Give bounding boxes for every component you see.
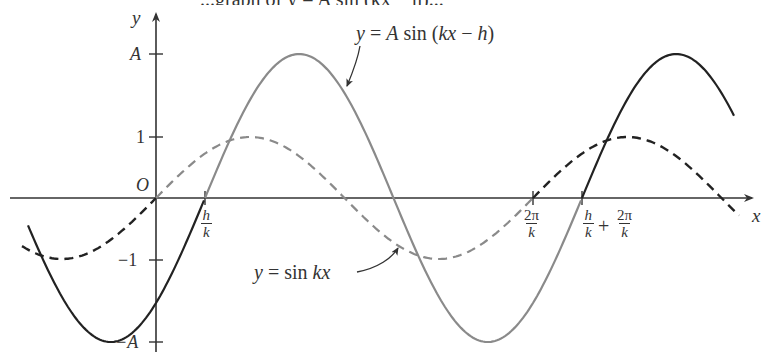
- y-tick-label-1: 1: [136, 128, 145, 146]
- x-axis-label: x: [752, 206, 760, 225]
- base-sine-curve-right: [533, 137, 739, 216]
- shifted-sine-label: y = A sin (kx − h): [356, 23, 494, 43]
- y-axis-label: y: [132, 8, 140, 27]
- fraction-numerator: 2π: [523, 208, 540, 223]
- label-part: y: [254, 261, 263, 283]
- label-part: kx: [313, 261, 331, 283]
- fraction-denominator: k: [619, 223, 630, 240]
- origin-label: O: [136, 176, 149, 194]
- y-tick-label-negA: −A: [115, 333, 138, 351]
- label-part: kx: [438, 22, 456, 44]
- label-part: sin (: [398, 22, 438, 44]
- fraction-denominator: k: [526, 223, 537, 240]
- x-tick-label-h-over-k-sum-part1: h k: [583, 208, 594, 240]
- caption-fragment: ...graph of y = A sin (kx − h)...: [0, 0, 773, 5]
- y-tick-label-A: A: [130, 45, 141, 63]
- label-part: = sin: [263, 261, 313, 283]
- x-tick-label-plus: +: [598, 216, 609, 236]
- shifted-sine-curve-left: [28, 200, 204, 342]
- caption-text: ...graph of y = A sin (kx − h)...: [200, 0, 444, 5]
- fraction-denominator: k: [201, 223, 212, 240]
- shifted-sine-leader-arrow: [347, 46, 360, 86]
- y-tick-label-neg1: −1: [118, 251, 137, 269]
- base-sine-leader-arrow: [357, 248, 398, 272]
- plot-canvas: [0, 0, 773, 360]
- label-part: A: [386, 22, 398, 44]
- x-tick-label-h-over-k: h k: [201, 208, 212, 240]
- label-part: h: [477, 22, 487, 44]
- x-tick-label-h-over-k-sum-part2: 2π k: [616, 208, 633, 240]
- label-part: =: [365, 22, 386, 44]
- shifted-sine-curve-right: [582, 54, 734, 198]
- label-part: y: [356, 22, 365, 44]
- fraction-numerator: 2π: [616, 208, 633, 223]
- label-part: −: [456, 22, 477, 44]
- fraction-numerator: h: [584, 208, 594, 223]
- label-part: ): [487, 22, 494, 44]
- fraction-numerator: h: [202, 208, 212, 223]
- sine-transformation-diagram: ...graph of y = A sin (kx − h)... y x O …: [0, 0, 773, 360]
- fraction-denominator: k: [583, 223, 594, 240]
- base-sine-label: y = sin kx: [254, 262, 330, 282]
- x-tick-label-2pi-over-k: 2π k: [523, 208, 540, 240]
